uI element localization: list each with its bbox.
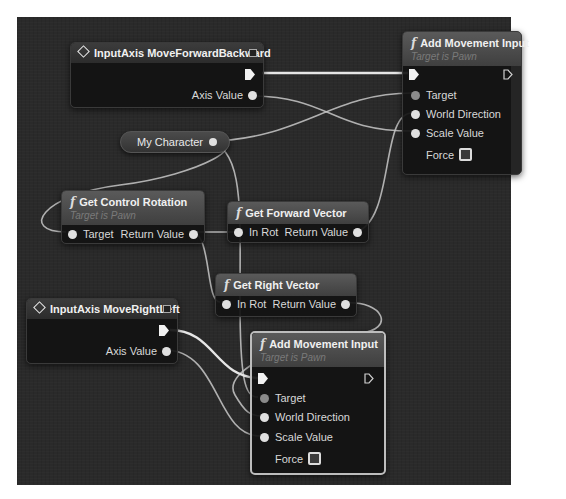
pin-label: Axis Value (192, 89, 243, 101)
pin-label: Axis Value (106, 345, 157, 357)
target-pin-row[interactable]: Target (411, 89, 457, 101)
exec-out-pin-icon[interactable] (245, 69, 255, 80)
pin-label: World Direction (275, 411, 350, 423)
exec-out-pin-row[interactable] (364, 373, 374, 384)
force-checkbox[interactable] (459, 148, 472, 161)
node-header: fGet Forward Vector (228, 202, 368, 224)
scale-value-pin-row[interactable]: Scale Value (411, 127, 484, 139)
exec-out-pin-icon[interactable] (159, 325, 169, 336)
force-checkbox[interactable] (308, 452, 321, 465)
output-delegate-icon[interactable] (249, 49, 257, 57)
pin-label: In Rot (237, 298, 266, 310)
node-my-character[interactable]: My Character (120, 131, 230, 153)
pin-label: Force (426, 149, 454, 161)
node-inputaxis-right[interactable]: InputAxis MoveRightLeft Axis Value (26, 298, 178, 364)
vector-pin-icon[interactable] (353, 228, 362, 237)
exec-in-pin-row[interactable] (409, 69, 419, 80)
world-direction-pin-row[interactable]: World Direction (260, 411, 350, 423)
node-inputaxis-forward[interactable]: InputAxis MoveForwardBackward Axis Value (70, 42, 264, 108)
axis-value-pin-row[interactable]: Axis Value (106, 345, 171, 357)
exec-out-pin-row[interactable] (503, 69, 513, 80)
object-pin-icon[interactable] (209, 138, 217, 146)
pin-label: Return Value (273, 298, 336, 310)
force-pin-row[interactable]: Force (426, 148, 472, 161)
node-title: Get Right Vector (233, 279, 319, 291)
rotator-pin-icon[interactable] (234, 228, 243, 237)
pin-label: Target (83, 228, 114, 240)
vector-pin-icon[interactable] (411, 110, 420, 119)
event-diamond-icon (77, 45, 90, 58)
object-pin-icon[interactable] (411, 91, 420, 100)
return-value-pin-row[interactable]: Return Value (273, 298, 350, 310)
exec-out-pin-icon[interactable] (364, 373, 374, 384)
rotator-pin-icon[interactable] (222, 300, 231, 309)
node-add-movement-input-top[interactable]: fAdd Movement Input Target is Pawn Targe… (402, 31, 522, 175)
node-header: InputAxis MoveForwardBackward (71, 43, 263, 63)
rotator-pin-icon[interactable] (189, 230, 198, 239)
exec-out-pin-icon[interactable] (503, 69, 513, 80)
node-header: fGet Control Rotation Target is Pawn (62, 191, 204, 225)
node-header: InputAxis MoveRightLeft (27, 299, 177, 319)
return-value-pin-row[interactable]: Return Value (285, 226, 362, 238)
float-pin-icon[interactable] (162, 347, 171, 356)
target-pin-row[interactable]: Target (68, 228, 114, 240)
force-pin-row[interactable]: Force (275, 452, 321, 465)
node-title: InputAxis MoveRightLeft (50, 303, 180, 315)
exec-in-pin-icon[interactable] (409, 69, 419, 80)
float-pin-icon[interactable] (260, 433, 269, 442)
node-subtitle: Target is Pawn (260, 352, 376, 363)
return-value-pin-row[interactable]: Return Value (121, 228, 198, 240)
function-icon: f (70, 195, 75, 209)
pin-label: Return Value (121, 228, 184, 240)
vector-pin-icon[interactable] (260, 413, 269, 422)
target-pin-row[interactable]: Target (260, 392, 306, 404)
node-title: Get Forward Vector (245, 207, 346, 219)
pin-label: Return Value (285, 226, 348, 238)
vector-pin-icon[interactable] (341, 300, 350, 309)
exec-in-pin-icon[interactable] (258, 373, 268, 384)
function-icon: f (224, 278, 229, 292)
object-pin-icon[interactable] (260, 394, 269, 403)
node-add-movement-input-bottom[interactable]: fAdd Movement Input Target is Pawn Targe… (250, 331, 386, 475)
pin-label: Scale Value (426, 127, 484, 139)
function-icon: f (236, 206, 241, 220)
function-icon: f (260, 337, 265, 351)
world-direction-pin-row[interactable]: World Direction (411, 108, 501, 120)
node-title: InputAxis MoveForwardBackward (94, 47, 271, 59)
object-pin-icon[interactable] (68, 230, 77, 239)
exec-in-pin-row[interactable] (258, 373, 268, 384)
pin-label: Scale Value (275, 431, 333, 443)
node-get-forward-vector[interactable]: fGet Forward Vector In Rot Return Value (227, 201, 369, 243)
output-delegate-icon[interactable] (163, 305, 171, 313)
function-icon: f (411, 36, 416, 50)
node-title: My Character (137, 136, 203, 148)
float-pin-icon[interactable] (411, 129, 420, 138)
node-get-right-vector[interactable]: fGet Right Vector In Rot Return Value (215, 273, 357, 317)
exec-out-pin-row[interactable] (159, 325, 169, 336)
scale-value-pin-row[interactable]: Scale Value (260, 431, 333, 443)
pin-label: Target (426, 89, 457, 101)
node-get-control-rotation[interactable]: fGet Control Rotation Target is Pawn Tar… (61, 190, 205, 244)
pin-label: In Rot (249, 226, 278, 238)
pin-label: Force (275, 453, 303, 465)
in-rot-pin-row[interactable]: In Rot (222, 298, 266, 310)
pin-label: Target (275, 392, 306, 404)
node-title: Add Movement Input (269, 338, 378, 350)
node-title: Get Control Rotation (79, 196, 187, 208)
float-pin-icon[interactable] (248, 91, 257, 100)
axis-value-pin-row[interactable]: Axis Value (192, 89, 257, 101)
node-subtitle: Target is Pawn (411, 51, 513, 62)
pin-label: World Direction (426, 108, 501, 120)
event-diamond-icon (33, 301, 46, 314)
node-header: fAdd Movement Input Target is Pawn (403, 32, 521, 66)
in-rot-pin-row[interactable]: In Rot (234, 226, 278, 238)
node-header: fAdd Movement Input Target is Pawn (252, 333, 384, 367)
exec-out-pin-row[interactable] (245, 69, 255, 80)
node-header: fGet Right Vector (216, 274, 356, 296)
node-title: Add Movement Input (420, 37, 529, 49)
node-subtitle: Target is Pawn (70, 210, 196, 221)
